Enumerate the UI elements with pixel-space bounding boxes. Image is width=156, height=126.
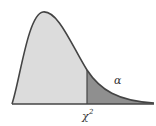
alpha-label: α <box>114 74 122 87</box>
chi-square-diagram: α χ 2 <box>0 0 156 126</box>
chi-square-superscript: 2 <box>88 108 94 116</box>
